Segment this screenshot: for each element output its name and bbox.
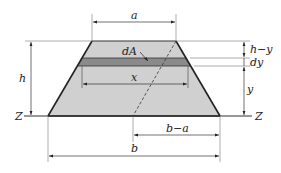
label-y: y [246,83,254,96]
label-a: a [131,9,138,22]
diagram-canvas: a h x h−y dy y dA b−a b Z Z [0,0,281,173]
label-h-minus-y: h−y [250,43,273,56]
strip-dA [78,58,191,66]
label-x: x [131,71,138,84]
label-b-minus-a: b−a [166,122,189,135]
label-z-left: Z [14,110,23,123]
label-dA: dA [122,45,137,58]
label-b: b [131,142,138,155]
label-z-right: Z [254,110,263,123]
label-dy: dy [250,56,264,69]
label-h: h [19,72,26,85]
trapezoid-diagram: a h x h−y dy y dA b−a b Z Z [0,0,281,173]
